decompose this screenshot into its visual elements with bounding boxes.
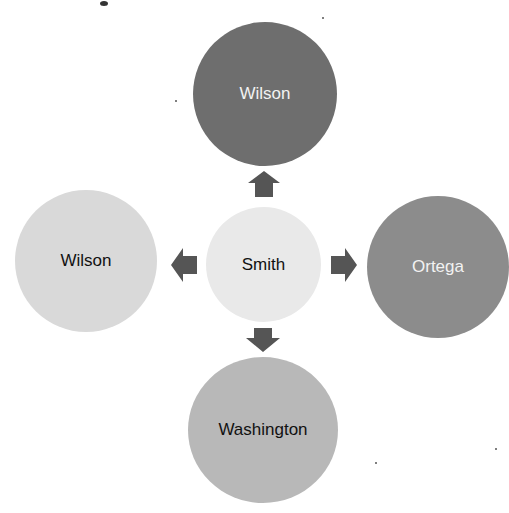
- node-left: Wilson: [15, 190, 157, 332]
- node-top-label: Wilson: [239, 84, 290, 104]
- node-bottom: Washington: [188, 357, 338, 503]
- node-right: Ortega: [367, 196, 509, 338]
- speck: [495, 448, 497, 450]
- node-left-label: Wilson: [60, 251, 111, 271]
- node-bottom-label: Washington: [218, 420, 307, 440]
- arrow-up-icon: [248, 171, 280, 197]
- node-top: Wilson: [193, 22, 337, 166]
- speck: [100, 1, 108, 6]
- node-center: Smith: [206, 207, 321, 322]
- arrow-right-icon: [331, 248, 357, 282]
- arrow-down-icon: [246, 328, 280, 352]
- node-center-label: Smith: [242, 255, 285, 275]
- speck: [322, 17, 324, 19]
- speck: [375, 462, 377, 464]
- node-right-label: Ortega: [412, 257, 464, 277]
- arrow-left-icon: [171, 248, 197, 282]
- speck: [175, 100, 177, 102]
